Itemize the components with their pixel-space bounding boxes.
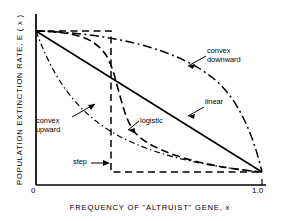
x-tick-label-min: 0 [31,186,35,195]
leader-linear [188,107,204,119]
curve-label-convex-upward: convex upward [36,117,60,134]
x-tick-label-max: 1.0 [252,186,263,195]
leader-convex-upward [72,104,95,117]
leader-step [91,160,110,166]
figure-container: POPULATION EXTINCTION RATE, E ( x ) FREQ… [0,0,286,221]
curve-label-convex-downward-line2: downward [207,56,241,65]
curve-label-step: step [73,158,87,167]
chart-plot-area [0,0,286,221]
curve-label-convex-upward-line2: upward [36,126,60,135]
curve-label-convex-downward: convex downward [207,47,241,64]
y-axis-title: POPULATION EXTINCTION RATE, E ( x ) [15,11,24,189]
x-axis-title: FREQUENCY OF "ALTRUIST" GENE, x [36,203,264,212]
curve-label-linear: linear [205,98,223,107]
curve-label-logistic: logistic [140,117,163,126]
